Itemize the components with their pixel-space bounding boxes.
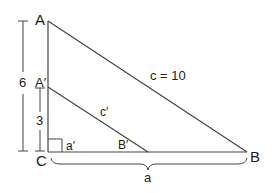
vertex-label-a: A bbox=[35, 11, 45, 28]
hypotenuse-a-prime-b-prime bbox=[48, 87, 148, 152]
right-angle-marker bbox=[48, 139, 62, 152]
side-label-c: c = 10 bbox=[150, 68, 186, 83]
vertex-label-a-prime: A′ bbox=[35, 75, 47, 90]
dimension-label-3: 3 bbox=[36, 113, 43, 128]
vertex-label-c: C bbox=[36, 152, 47, 169]
side-label-a-prime: a′ bbox=[66, 139, 76, 153]
side-label-c-prime: c′ bbox=[100, 105, 109, 119]
vertex-label-b: B bbox=[250, 148, 260, 165]
vertex-label-b-prime: B′ bbox=[118, 138, 129, 152]
dimension-label-6: 6 bbox=[19, 75, 26, 90]
large-triangle bbox=[48, 21, 247, 152]
similar-triangles-diagram: A A′ C B B′ c = 10 c′ a′ a 6 3 bbox=[0, 0, 279, 193]
hypotenuse-ab bbox=[48, 21, 247, 152]
side-label-a: a bbox=[144, 170, 152, 185]
brace-base-a bbox=[51, 158, 247, 170]
diagram-canvas: A A′ C B B′ c = 10 c′ a′ a 6 3 bbox=[0, 0, 279, 193]
